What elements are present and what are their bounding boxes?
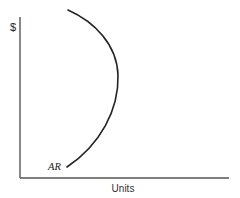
chart: $ Units AR <box>0 0 240 198</box>
y-axis-label: $ <box>10 21 16 33</box>
curve-label-ar: AR <box>47 161 61 172</box>
chart-canvas: $ Units AR <box>0 0 240 198</box>
x-axis-label: Units <box>112 183 135 194</box>
ar-curve <box>67 10 118 167</box>
